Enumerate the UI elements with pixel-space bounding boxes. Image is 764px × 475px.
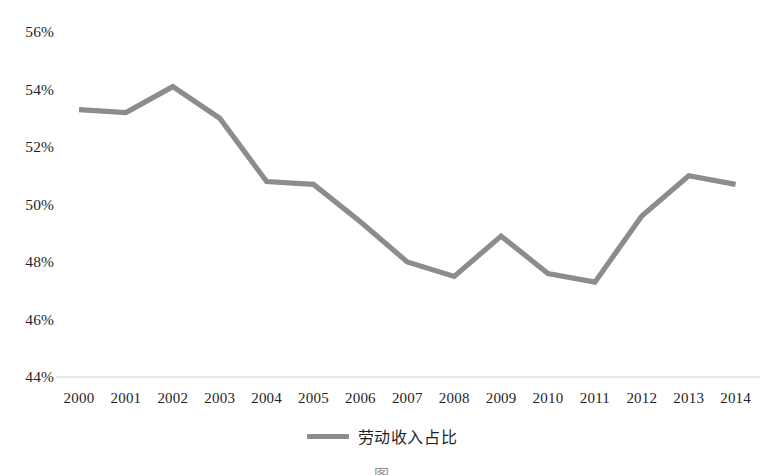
x-axis-tick-label: 2014 [709, 390, 763, 407]
x-axis-tick-label: 2004 [240, 390, 294, 407]
y-axis-tick-label: 54% [6, 81, 54, 99]
y-axis-tick-label: 46% [6, 311, 54, 329]
y-axis-tick-label: 56% [6, 23, 54, 41]
x-axis-tick-label: 2003 [193, 390, 247, 407]
line-chart: 56%54%52%50%48%46%44% 200020012002200320… [0, 0, 764, 475]
y-axis-tick-label: 50% [6, 196, 54, 214]
series-line-labor-income-share [79, 87, 736, 283]
x-axis-tick-label: 2006 [333, 390, 387, 407]
x-axis-tick-label: 2005 [287, 390, 341, 407]
x-axis-tick-label: 2008 [427, 390, 481, 407]
y-axis-tick-label: 52% [6, 138, 54, 156]
x-axis-tick-label: 2011 [568, 390, 622, 407]
legend-label: 劳动收入占比 [358, 424, 458, 448]
x-axis-tick-label: 2010 [521, 390, 575, 407]
x-axis-tick-label: 2001 [99, 390, 153, 407]
x-axis-tick-label: 2012 [615, 390, 669, 407]
figure-caption: 图 [0, 463, 764, 475]
x-axis-tick-label: 2007 [380, 390, 434, 407]
y-axis-tick-label: 44% [6, 368, 54, 386]
x-axis-tick-label: 2000 [52, 390, 106, 407]
legend-line-swatch-icon [307, 434, 349, 439]
x-axis-tick-label: 2009 [474, 390, 528, 407]
x-axis-tick-label: 2013 [662, 390, 716, 407]
y-axis-tick-label: 48% [6, 253, 54, 271]
x-axis-tick-label: 2002 [146, 390, 200, 407]
chart-legend: 劳动收入占比 [0, 424, 764, 448]
